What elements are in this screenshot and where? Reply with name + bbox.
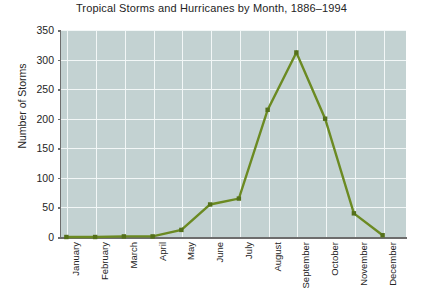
- x-tick-label-october: October: [329, 242, 340, 276]
- y-axis-ticks: 050100150200250300350: [6, 0, 54, 298]
- data-series-line: [60, 30, 405, 237]
- data-point-august: [265, 108, 269, 112]
- x-tick-label-july: July: [243, 242, 254, 259]
- x-tick-label-november: November: [358, 242, 369, 286]
- chart-figure: Tropical Storms and Hurricanes by Month,…: [0, 0, 423, 298]
- data-point-april: [150, 234, 154, 238]
- x-tick-label-december: December: [387, 242, 398, 286]
- x-tick-label-april: April: [157, 242, 168, 261]
- y-tick-mark-0: [58, 237, 61, 239]
- data-point-december: [380, 233, 384, 237]
- data-point-february: [93, 235, 97, 239]
- data-point-may: [179, 228, 183, 232]
- y-tick-label-200: 200: [8, 113, 54, 125]
- data-point-january: [64, 235, 68, 239]
- series-markers: [64, 50, 385, 239]
- x-tick-label-january: January: [70, 242, 81, 276]
- data-point-june: [208, 202, 212, 206]
- x-tick-label-august: August: [272, 242, 283, 272]
- x-tick-label-march: March: [128, 242, 139, 268]
- x-tick-label-september: September: [300, 242, 311, 288]
- data-point-november: [352, 211, 356, 215]
- series-polyline: [66, 52, 382, 237]
- data-point-july: [237, 196, 241, 200]
- x-tick-label-may: May: [185, 242, 196, 260]
- chart-title: Tropical Storms and Hurricanes by Month,…: [0, 2, 423, 14]
- y-tick-label-100: 100: [8, 172, 54, 184]
- data-point-march: [122, 234, 126, 238]
- y-tick-label-350: 350: [8, 24, 54, 36]
- y-tick-label-50: 50: [8, 201, 54, 213]
- x-tick-label-june: June: [214, 242, 225, 263]
- data-point-october: [323, 117, 327, 121]
- y-tick-label-0: 0: [8, 231, 54, 243]
- x-tick-label-february: February: [99, 242, 110, 280]
- data-point-september: [294, 50, 298, 54]
- y-tick-label-300: 300: [8, 54, 54, 66]
- y-tick-label-150: 150: [8, 142, 54, 154]
- y-tick-label-250: 250: [8, 83, 54, 95]
